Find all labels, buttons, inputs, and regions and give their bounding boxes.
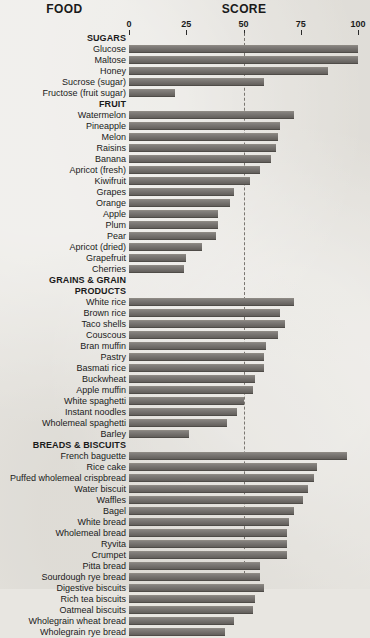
chart-row: Water biscuit [0,484,370,495]
axis-tick-label-0: 0 [126,19,131,29]
food-label: Apricot (fresh) [69,165,126,176]
group-header-row: GRAINS & GRAIN [0,275,370,286]
food-label: Water biscuit [74,484,126,495]
food-label: Pastry [100,352,126,363]
food-label: Banana [95,154,126,165]
value-bar [129,485,308,493]
value-bar [129,78,264,86]
chart-row: Maltose [0,55,370,66]
value-bar [129,144,276,152]
value-bar [129,177,250,185]
x-axis: 0255075100 [0,19,370,33]
chart-row: Instant noodles [0,407,370,418]
food-label: Maltose [94,55,126,66]
value-bar [129,584,264,592]
chart-row: Taco shells [0,319,370,330]
group-header-row: FRUIT [0,99,370,110]
food-label: Sucrose (sugar) [62,77,126,88]
value-bar [129,529,287,537]
value-bar [129,199,230,207]
food-label: Wholegrain rye bread [40,627,126,638]
food-label: Buckwheat [82,374,126,385]
value-bar [129,573,260,581]
value-bar [129,133,278,141]
chart-row: Pitta bread [0,561,370,572]
value-bar [129,331,278,339]
axis-tick-label-100: 100 [350,19,365,29]
food-label: Barley [100,429,126,440]
chart-row: Watermelon [0,110,370,121]
value-bar [129,155,271,163]
food-label: Wholemeal bread [55,528,126,539]
chart-row: Couscous [0,330,370,341]
food-label: Waffles [96,495,126,506]
chart-row: Basmati rice [0,363,370,374]
chart-row: Apricot (dried) [0,242,370,253]
food-label: Bagel [103,506,126,517]
value-bar [129,232,216,240]
value-bar [129,518,289,526]
food-label: Taco shells [81,319,126,330]
value-bar [129,408,237,416]
food-label: Instant noodles [65,407,126,418]
chart-row: Bagel [0,506,370,517]
food-label: White bread [77,517,126,528]
value-bar [129,45,358,53]
chart-row: Raisins [0,143,370,154]
chart-row: Grapes [0,187,370,198]
value-bar [129,595,255,603]
chart-row: Oatmeal biscuits [0,605,370,616]
value-bar [129,89,175,97]
chart-row: Pineapple [0,121,370,132]
value-bar [129,430,189,438]
value-bar [129,265,184,273]
food-label: Honey [100,66,126,77]
chart-row: Ryvita [0,539,370,550]
value-bar [129,507,294,515]
food-label: Watermelon [78,110,126,121]
food-label: Fructose (fruit sugar) [42,88,126,99]
score-column-header: SCORE [129,2,359,16]
food-label: Puffed wholemeal crispbread [10,473,126,484]
food-column-header: FOOD [0,2,129,16]
value-bar [129,320,285,328]
chart-row: Pastry [0,352,370,363]
axis-tick-label-75: 75 [296,19,306,29]
chart-row: Grapefruit [0,253,370,264]
food-label: White rice [86,297,126,308]
food-label: Kiwifruit [94,176,126,187]
value-bar [129,562,260,570]
chart-row: Brown rice [0,308,370,319]
value-bar [129,419,227,427]
value-bar [129,375,255,383]
food-label: Pear [107,231,126,242]
chart-row: Bran muffin [0,341,370,352]
chart-row: Buckwheat [0,374,370,385]
value-bar [129,221,218,229]
chart-row: Pear [0,231,370,242]
value-bar [129,243,202,251]
food-label: Apricot (dried) [69,242,126,253]
chart-row: Rich tea biscuits [0,594,370,605]
chart-row: Apple [0,209,370,220]
chart-row: Rice cake [0,462,370,473]
value-bar [129,606,253,614]
value-bar [129,474,314,482]
chart-row: Wholegrain rye bread [0,627,370,638]
group-label: FRUIT [99,99,126,110]
food-label: Ryvita [101,539,126,550]
food-label: Melon [101,132,126,143]
chart-row: Sucrose (sugar) [0,77,370,88]
value-bar [129,463,317,471]
food-label: Apple muffin [76,385,126,396]
chart-row: Apricot (fresh) [0,165,370,176]
axis-tick-label-50: 50 [238,19,248,29]
chart-row: Plum [0,220,370,231]
chart-row: Wholemeal spaghetti [0,418,370,429]
food-label: Pineapple [86,121,126,132]
chart-row: French baguette [0,451,370,462]
value-bar [129,540,287,548]
chart-rows: SUGARSGlucoseMaltoseHoneySucrose (sugar)… [0,33,370,638]
chart-row: Banana [0,154,370,165]
